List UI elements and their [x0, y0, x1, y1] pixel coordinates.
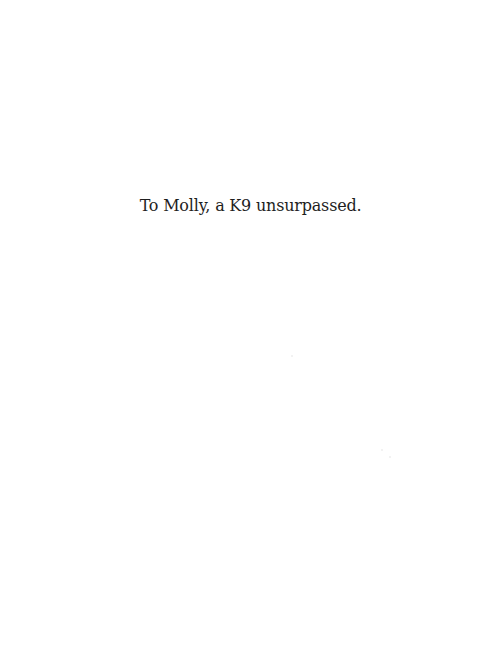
document-page: To Molly, a K9 unsurpassed.	[0, 0, 501, 667]
scan-speck	[381, 449, 383, 451]
scan-speck	[389, 456, 391, 458]
dedication-text: To Molly, a K9 unsurpassed.	[0, 195, 501, 217]
scan-speck	[291, 355, 293, 357]
